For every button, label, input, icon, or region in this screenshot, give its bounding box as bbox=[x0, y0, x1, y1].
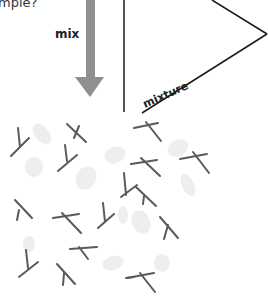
mix-label: mix bbox=[55, 27, 80, 41]
mixture-label: mixture bbox=[141, 79, 190, 111]
mix-arrow bbox=[75, 0, 104, 97]
caption-fragment: mple? bbox=[0, 0, 37, 10]
mixing-diagram: mple? mix mixture bbox=[0, 0, 268, 303]
blobs bbox=[23, 120, 199, 272]
